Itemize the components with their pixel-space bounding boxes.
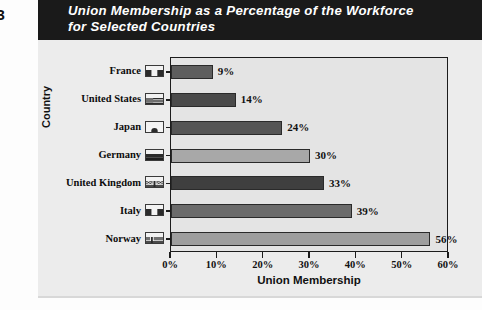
figure-container: -3 Union Membership as a Percentage of t… (0, 0, 482, 310)
y-category-germany: Germany (55, 148, 164, 162)
plot-area: 9%14%24%30%33%39%56% (170, 57, 448, 252)
bar-value-label: 9% (218, 64, 235, 78)
y-category-japan: Japan (55, 120, 164, 134)
x-axis-tick (169, 252, 171, 258)
y-axis-tick (166, 155, 171, 157)
bar-value-label: 24% (287, 120, 309, 134)
x-axis-tick (262, 252, 264, 258)
y-category-label: Italy (120, 205, 141, 216)
y-category-label: United States (81, 93, 141, 104)
x-axis-tick (308, 252, 310, 258)
x-axis-tick-label: 30% (299, 259, 320, 270)
bar-france (171, 65, 213, 79)
y-axis-tick (166, 238, 171, 240)
bar-japan (171, 121, 282, 135)
bar-italy (171, 204, 352, 218)
x-axis-tick-label: 50% (391, 259, 412, 270)
x-axis-tick-label: 60% (438, 259, 459, 270)
y-category-label: Norway (105, 233, 141, 244)
x-axis: 0%10%20%30%40%50%60% (170, 252, 448, 276)
bar-value-label: 30% (315, 148, 337, 162)
y-category-label: Japan (114, 121, 141, 132)
bar-germany (171, 149, 310, 163)
x-axis-tick (401, 252, 403, 258)
y-axis-tick (166, 99, 171, 101)
flag-france-icon (145, 65, 164, 77)
y-category-label: United Kingdom (66, 177, 141, 188)
y-category-label: Germany (98, 149, 141, 160)
y-axis-tick (166, 71, 171, 73)
y-axis-tick (166, 183, 171, 185)
y-category-italy: Italy (55, 203, 164, 217)
flag-germany-icon (145, 149, 164, 161)
bar-value-label: 14% (241, 92, 263, 106)
x-axis-tick-label: 10% (206, 259, 227, 270)
x-axis-tick-label: 0% (162, 259, 178, 270)
bar-value-label: 39% (357, 204, 379, 218)
flag-united-states-icon (145, 93, 164, 105)
y-category-united-states: United States (55, 92, 164, 106)
x-axis-title: Union Membership (170, 274, 448, 286)
y-axis-title: Country (40, 86, 52, 128)
y-category-france: France (55, 64, 164, 78)
flag-italy-icon (145, 204, 164, 216)
flag-japan-icon (145, 121, 164, 133)
y-axis-tick (166, 127, 171, 129)
bar-united-states (171, 93, 236, 107)
y-axis-tick (166, 210, 171, 212)
figure-number: -3 (0, 6, 4, 23)
x-axis-tick (216, 252, 218, 258)
bar-norway (171, 232, 430, 246)
panel-bottom-edge (38, 296, 482, 298)
flag-norway-icon (145, 232, 164, 244)
y-category-label: France (110, 65, 142, 76)
y-category-united-kingdom: United Kingdom (55, 175, 164, 189)
y-category-norway: Norway (55, 231, 164, 245)
bar-united-kingdom (171, 176, 324, 190)
bar-value-label: 56% (435, 232, 457, 246)
title-banner: Union Membership as a Percentage of the … (38, 0, 482, 40)
flag-united-kingdom-icon (145, 176, 164, 188)
x-axis-tick (355, 252, 357, 258)
bar-value-label: 33% (329, 176, 351, 190)
x-axis-tick-label: 20% (252, 259, 273, 270)
chart-title: Union Membership as a Percentage of the … (68, 3, 468, 35)
plot-inner: 9%14%24%30%33%39%56% (171, 58, 447, 251)
x-axis-tick (447, 252, 449, 258)
x-axis-tick-label: 40% (345, 259, 366, 270)
